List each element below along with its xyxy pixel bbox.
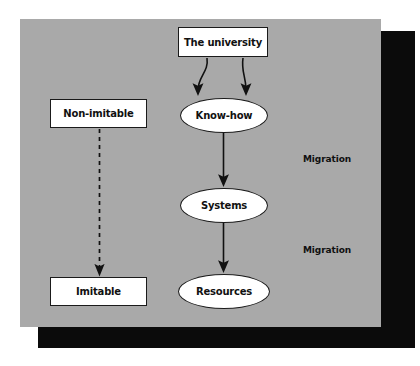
node-systems[interactable]: Systems — [180, 188, 268, 223]
annotation-migration-upper: Migration — [303, 154, 351, 164]
diagram-canvas: The university Non-imitable Imitable Kno… — [0, 0, 420, 366]
node-resources-label: Resources — [196, 286, 252, 297]
node-the-university[interactable]: The university — [178, 27, 268, 57]
annotation-migration-lower: Migration — [303, 245, 351, 255]
node-know-how-label: Know-how — [196, 110, 253, 121]
node-imitable[interactable]: Imitable — [50, 277, 147, 306]
node-non-imitable-label: Non-imitable — [63, 108, 133, 119]
node-resources[interactable]: Resources — [178, 274, 270, 309]
node-imitable-label: Imitable — [76, 286, 121, 297]
node-non-imitable[interactable]: Non-imitable — [50, 99, 147, 128]
node-know-how[interactable]: Know-how — [180, 98, 268, 133]
node-the-university-label: The university — [184, 37, 262, 48]
node-systems-label: Systems — [201, 200, 247, 211]
